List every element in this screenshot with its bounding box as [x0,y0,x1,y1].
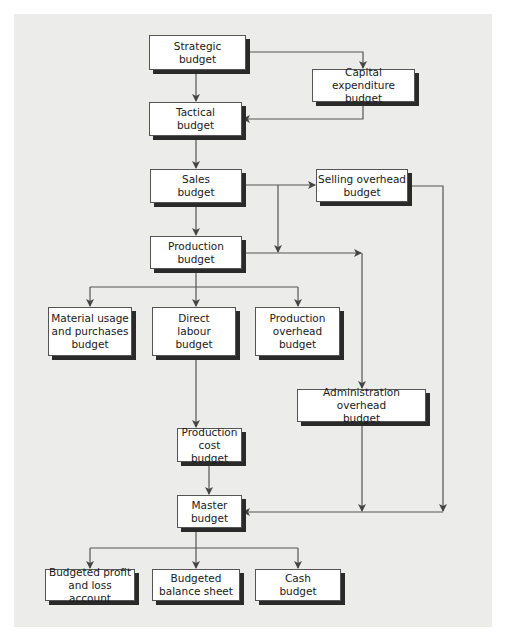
node-production-cost-budget: Production cost budget [177,428,242,462]
node-budgeted-balance-sheet: Budgeted balance sheet [152,569,240,601]
node-production-budget: Production budget [150,236,242,269]
node-material-usage-budget: Material usage and purchases budget [48,307,132,356]
node-administration-overhead-budget: Administration overhead budget [297,389,426,422]
node-production-overhead-budget: Production overhead budget [255,307,340,356]
node-tactical-budget: Tactical budget [149,102,242,136]
node-strategic-budget: Strategic budget [149,35,246,70]
node-master-budget: Master budget [177,495,242,528]
node-direct-labour-budget: Direct labour budget [152,307,236,356]
node-capital-expenditure-budget: Capital expenditure budget [312,69,415,102]
node-cash-budget: Cash budget [255,569,341,601]
node-sales-budget: Sales budget [150,169,242,203]
node-selling-overhead-budget: Selling overhead budget [316,169,408,202]
node-budgeted-profit-loss: Budgeted profit and loss account [45,569,135,601]
